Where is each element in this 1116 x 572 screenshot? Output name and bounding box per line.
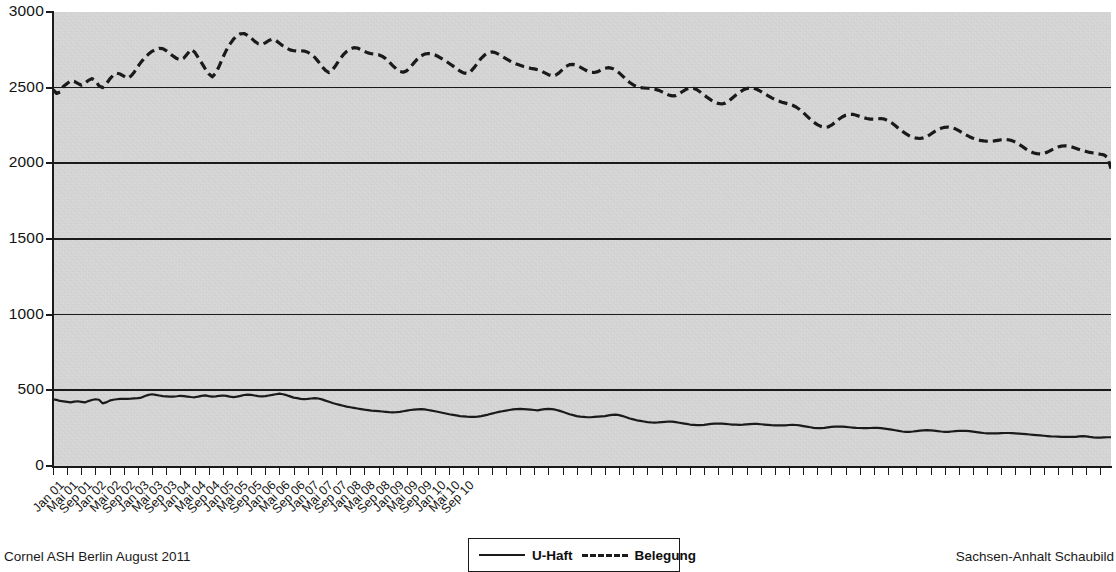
x-axis-tick xyxy=(435,468,436,475)
x-axis-tick xyxy=(336,468,337,475)
x-axis-tick xyxy=(676,468,677,475)
x-axis-tick xyxy=(945,468,946,475)
x-axis-tick xyxy=(1058,468,1059,475)
series-line-belegung xyxy=(53,33,1111,168)
series-line-u-haft xyxy=(53,394,1111,438)
y-axis-tick xyxy=(46,11,53,13)
x-axis-tick xyxy=(931,468,932,475)
x-axis-tick xyxy=(421,468,422,475)
x-axis-tick xyxy=(364,468,365,475)
x-axis-tick xyxy=(959,468,960,475)
x-axis-tick xyxy=(265,468,266,475)
x-axis-tick xyxy=(747,468,748,475)
x-axis-tick xyxy=(463,468,464,475)
x-axis-tick xyxy=(180,468,181,475)
x-axis-tick xyxy=(237,468,238,475)
y-axis-tick xyxy=(46,238,53,240)
x-axis-tick xyxy=(789,468,790,475)
x-axis-tick xyxy=(732,468,733,475)
x-axis-tick xyxy=(308,468,309,475)
y-axis-tick xyxy=(46,87,53,89)
y-axis-tick-label: 2500 xyxy=(0,78,44,96)
x-axis-tick xyxy=(817,468,818,475)
x-axis-tick xyxy=(775,468,776,475)
footer-credit-right: Sachsen-Anhalt Schaubild xyxy=(956,549,1114,564)
x-axis-line xyxy=(52,466,1112,468)
x-axis-tick xyxy=(81,468,82,475)
x-axis-tick xyxy=(563,468,564,475)
x-axis-tick xyxy=(350,468,351,475)
x-axis-tick xyxy=(761,468,762,475)
x-axis-tick xyxy=(95,468,96,475)
x-axis-tick xyxy=(67,468,68,475)
chart-legend: U-Haft Belegung xyxy=(468,538,680,572)
x-axis-tick xyxy=(973,468,974,475)
x-axis-tick xyxy=(916,468,917,475)
y-axis-tick xyxy=(46,389,53,391)
x-axis-tick xyxy=(846,468,847,475)
x-axis-tick xyxy=(633,468,634,475)
x-axis-tick xyxy=(322,468,323,475)
x-axis-tick xyxy=(53,468,54,475)
y-axis-tick-label: 2000 xyxy=(0,153,44,171)
x-axis-tick xyxy=(449,468,450,475)
x-axis-tick xyxy=(393,468,394,475)
legend-line-solid-icon xyxy=(479,554,525,556)
x-axis-tick xyxy=(548,468,549,475)
x-axis-tick xyxy=(478,468,479,475)
y-axis-tick xyxy=(46,314,53,316)
y-axis-tick-label: 3000 xyxy=(0,2,44,20)
x-axis-tick xyxy=(209,468,210,475)
x-axis-tick xyxy=(902,468,903,475)
x-axis-tick xyxy=(138,468,139,475)
y-axis-tick xyxy=(46,162,53,164)
x-axis-tick xyxy=(690,468,691,475)
x-axis-tick xyxy=(1086,468,1087,475)
y-axis-tick-label: 1500 xyxy=(0,229,44,247)
footer-credit-left: Cornel ASH Berlin August 2011 xyxy=(4,549,191,564)
x-axis-tick xyxy=(1072,468,1073,475)
x-axis-tick xyxy=(888,468,889,475)
x-axis-tick xyxy=(860,468,861,475)
x-axis-tick xyxy=(506,468,507,475)
legend-item-u-haft: U-Haft xyxy=(479,548,573,563)
legend-label-u-haft: U-Haft xyxy=(532,548,573,563)
legend-line-dashed-icon xyxy=(582,554,628,557)
x-axis-tick xyxy=(251,468,252,475)
x-axis-tick xyxy=(520,468,521,475)
x-axis-tick xyxy=(874,468,875,475)
x-axis-tick xyxy=(718,468,719,475)
x-axis-tick xyxy=(110,468,111,475)
y-axis-tick xyxy=(46,465,53,467)
legend-item-belegung: Belegung xyxy=(582,548,697,563)
x-axis-tick xyxy=(577,468,578,475)
x-axis-tick xyxy=(152,468,153,475)
legend-label-belegung: Belegung xyxy=(635,548,697,563)
x-axis-tick xyxy=(619,468,620,475)
x-axis-tick xyxy=(223,468,224,475)
x-axis-tick xyxy=(534,468,535,475)
x-axis-tick xyxy=(166,468,167,475)
x-axis-tick xyxy=(987,468,988,475)
x-axis-tick xyxy=(492,468,493,475)
x-axis-tick xyxy=(195,468,196,475)
x-axis-tick xyxy=(279,468,280,475)
x-axis-tick xyxy=(605,468,606,475)
x-axis-tick xyxy=(662,468,663,475)
x-axis-tick xyxy=(1001,468,1002,475)
x-axis-tick xyxy=(407,468,408,475)
y-axis-tick-label: 1000 xyxy=(0,305,44,323)
x-axis-tick xyxy=(1030,468,1031,475)
x-axis-tick xyxy=(704,468,705,475)
x-axis-tick xyxy=(647,468,648,475)
x-axis-tick xyxy=(831,468,832,475)
x-axis-tick xyxy=(294,468,295,475)
x-axis-tick xyxy=(1044,468,1045,475)
y-axis-tick-label: 500 xyxy=(0,380,44,398)
y-axis-tick-label: 0 xyxy=(0,456,44,474)
x-axis-tick xyxy=(1100,468,1101,475)
x-axis-tick xyxy=(803,468,804,475)
x-axis-tick xyxy=(379,468,380,475)
x-axis-tick xyxy=(124,468,125,475)
